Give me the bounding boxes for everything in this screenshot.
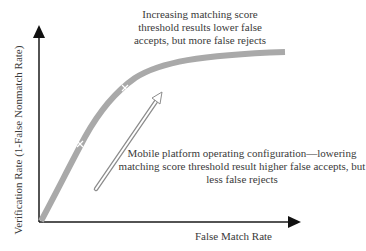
x-axis-arrowhead-icon	[288, 216, 301, 228]
mobile-configuration-annotation: Mobile platform operating configuration—…	[112, 147, 366, 186]
x-axis-label: False Match Rate	[195, 230, 315, 243]
high-threshold-annotation: Increasing matching score threshold resu…	[110, 8, 290, 47]
annotation-line: less false rejects	[112, 173, 366, 186]
annotation-line: threshold results lower false	[110, 21, 290, 34]
y-axis-label: Verification Rate (1-False Nonmatch Rate…	[12, 46, 25, 235]
y-axis-arrowhead-icon	[33, 25, 45, 38]
annotation-line: Increasing matching score	[110, 8, 290, 21]
annotation-line: matching score threshold result higher f…	[112, 160, 366, 173]
annotation-line: Mobile platform operating configuration—…	[112, 147, 366, 160]
verification-curve	[41, 52, 285, 221]
annotation-line: accepts, but more false rejects	[110, 34, 290, 47]
